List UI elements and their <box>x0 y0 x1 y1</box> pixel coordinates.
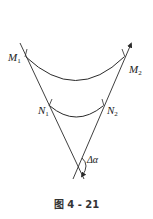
label-delta-alpha: Δα <box>87 155 98 165</box>
figure-caption: 图 4 - 21 <box>0 196 153 211</box>
tick-m2 <box>122 49 125 57</box>
label-n2: N2 <box>107 105 118 118</box>
left-tangent-line <box>20 43 84 179</box>
diagram-canvas <box>0 0 153 219</box>
right-tangent-line <box>73 44 131 179</box>
upper-arc <box>26 57 124 81</box>
label-m2: M2 <box>129 64 142 77</box>
tick-n1 <box>49 99 52 106</box>
label-m1: M1 <box>8 52 21 65</box>
lower-arc <box>50 106 103 117</box>
tick-n2 <box>102 99 104 106</box>
label-n1: N1 <box>38 105 49 118</box>
angle-arc <box>82 158 86 176</box>
